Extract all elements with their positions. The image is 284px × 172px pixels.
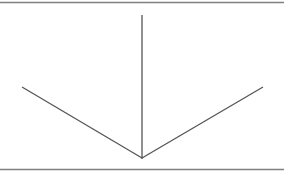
diagram-canvas xyxy=(0,0,284,172)
vertex-point xyxy=(141,157,143,159)
